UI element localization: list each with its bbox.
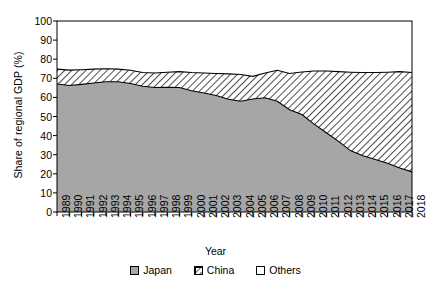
x-tick-label: 2012 [343, 195, 354, 218]
legend-label-china: China [207, 264, 234, 276]
x-tick-label: 2013 [355, 195, 366, 218]
x-tick-label: 1997 [159, 195, 170, 218]
legend-label-japan: Japan [143, 264, 172, 276]
x-tick-label: 1989 [61, 195, 72, 218]
x-tick-label: 2010 [318, 195, 329, 218]
x-tick-label: 2017 [404, 195, 415, 218]
x-tick-label: 2000 [196, 195, 207, 218]
x-tick-label: 2015 [379, 195, 390, 218]
y-axis-ticks [53, 21, 57, 212]
x-tick-label: 1994 [122, 195, 133, 218]
x-tick-label: 2016 [392, 195, 403, 218]
x-tick-label: 2008 [294, 195, 305, 218]
legend-swatch-others [256, 266, 265, 275]
stacked-area-chart: Share of regional GDP (%) 01020304050607… [0, 0, 431, 293]
legend-item-others: Others [256, 264, 301, 276]
x-tick-label: 1991 [85, 195, 96, 218]
x-tick-label: 1992 [98, 195, 109, 218]
legend-label-others: Others [269, 264, 301, 276]
x-tick-label: 1995 [134, 195, 145, 218]
legend-swatch-china [194, 266, 203, 275]
legend-swatch-japan [130, 266, 139, 275]
x-tick-label: 2009 [306, 195, 317, 218]
x-tick-label: 2018 [416, 195, 427, 218]
x-tick-label: 2006 [269, 195, 280, 218]
x-tick-label: 2003 [232, 195, 243, 218]
x-tick-label: 1998 [171, 195, 182, 218]
legend-item-japan: Japan [130, 264, 172, 276]
x-tick-label: 2002 [220, 195, 231, 218]
x-tick-label: 1990 [73, 195, 84, 218]
x-tick-label: 2005 [257, 195, 268, 218]
legend-item-china: China [194, 264, 234, 276]
x-tick-label: 1999 [183, 195, 194, 218]
x-tick-label: 2004 [245, 195, 256, 218]
x-axis-title: Year [0, 245, 431, 257]
x-tick-label: 1993 [110, 195, 121, 218]
x-axis-title-text: Year [205, 245, 226, 257]
x-tick-label: 2014 [367, 195, 378, 218]
x-tick-label: 2007 [281, 195, 292, 218]
x-tick-label: 1996 [147, 195, 158, 218]
x-tick-label: 2011 [330, 195, 341, 218]
x-tick-label: 2001 [208, 195, 219, 218]
chart-legend: Japan China Others [0, 264, 431, 276]
